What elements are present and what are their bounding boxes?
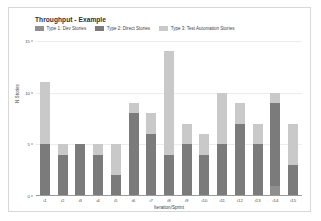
x-tick-label: i1 — [36, 198, 54, 203]
bar-segment[interactable] — [288, 165, 298, 196]
bar-segment[interactable] — [253, 144, 263, 196]
bar-segment[interactable] — [288, 124, 298, 165]
y-tick-mark — [31, 144, 33, 145]
chart-legend: Type 1: Dev Stories Type 2: Direct Stori… — [35, 26, 234, 31]
x-tick-label: i8 — [160, 198, 178, 203]
legend-item-type-3[interactable]: Type 3: Test Automation Stories — [159, 26, 234, 31]
bar-segment[interactable] — [93, 144, 103, 154]
bar-segment[interactable] — [129, 113, 139, 196]
bar-stack[interactable] — [164, 51, 174, 196]
bar-group[interactable] — [196, 41, 214, 196]
legend-label-type-1: Type 1: Dev Stories — [47, 26, 87, 31]
bar-segment[interactable] — [182, 124, 192, 145]
x-tick-label: i4 — [89, 198, 107, 203]
bar-group[interactable] — [160, 41, 178, 196]
bar-group[interactable] — [231, 41, 249, 196]
bar-stack[interactable] — [288, 124, 298, 196]
legend-swatch-type-3 — [159, 26, 168, 31]
bar-stack[interactable] — [58, 144, 68, 196]
plot-area — [36, 41, 302, 196]
bar-stack[interactable] — [217, 93, 227, 196]
bar-stack[interactable] — [146, 113, 156, 196]
y-axis-ticks: 051015 — [9, 41, 33, 196]
legend-item-type-1[interactable]: Type 1: Dev Stories — [35, 26, 86, 31]
legend-item-type-2[interactable]: Type 2: Direct Stories — [95, 26, 150, 31]
bar-group[interactable] — [213, 41, 231, 196]
x-tick-label: i3 — [71, 198, 89, 203]
bar-stack[interactable] — [93, 144, 103, 196]
x-tick-label: i7 — [142, 198, 160, 203]
bar-segment[interactable] — [217, 93, 227, 145]
bar-segment[interactable] — [182, 144, 192, 196]
bar-group[interactable] — [125, 41, 143, 196]
bar-segment[interactable] — [146, 134, 156, 196]
bar-stack[interactable] — [111, 144, 121, 196]
bar-stack[interactable] — [199, 134, 209, 196]
bar-group[interactable] — [107, 41, 125, 196]
bar-group[interactable] — [267, 41, 285, 196]
bar-segment[interactable] — [40, 144, 50, 196]
x-tick-label: i2 — [54, 198, 72, 203]
x-axis-ticks: i1i2i3i4i5i6i7i8i9i10i11i12i13i14i15 — [36, 198, 302, 203]
bar-segment[interactable] — [164, 51, 174, 154]
x-tick-label: i12 — [231, 198, 249, 203]
bar-group[interactable] — [36, 41, 54, 196]
x-tick-label: i15 — [284, 198, 302, 203]
bar-group[interactable] — [249, 41, 267, 196]
x-tick-label: i13 — [249, 198, 267, 203]
x-axis-title: Iteration/Sprint — [36, 205, 302, 210]
bar-segment[interactable] — [235, 124, 245, 196]
x-tick-label: i10 — [196, 198, 214, 203]
bar-segment[interactable] — [217, 144, 227, 196]
y-tick-mark — [31, 41, 33, 42]
bar-group[interactable] — [142, 41, 160, 196]
legend-label-type-3: Type 3: Test Automation Stories — [171, 26, 235, 31]
chart-title: Throughput - Example — [35, 16, 106, 23]
bar-segment[interactable] — [164, 155, 174, 196]
bar-stack[interactable] — [129, 103, 139, 196]
x-tick-label: i6 — [125, 198, 143, 203]
legend-swatch-type-1 — [35, 26, 44, 31]
legend-swatch-type-2 — [95, 26, 104, 31]
bar-group[interactable] — [178, 41, 196, 196]
bar-segment[interactable] — [146, 113, 156, 134]
x-axis-line — [36, 195, 302, 196]
bar-group[interactable] — [89, 41, 107, 196]
bar-segment[interactable] — [235, 103, 245, 124]
x-tick-label: i11 — [213, 198, 231, 203]
bar-group[interactable] — [54, 41, 72, 196]
y-tick-label: 10 — [25, 90, 30, 95]
bar-group[interactable] — [71, 41, 89, 196]
bar-series-container — [36, 41, 302, 196]
chart-figure: Throughput - Example Type 1: Dev Stories… — [8, 7, 311, 212]
bar-segment[interactable] — [253, 124, 263, 145]
bar-segment[interactable] — [40, 82, 50, 144]
bar-segment[interactable] — [129, 103, 139, 113]
bar-segment[interactable] — [270, 93, 280, 103]
y-tick-mark — [31, 92, 33, 93]
bar-segment[interactable] — [58, 155, 68, 196]
bar-segment[interactable] — [111, 175, 121, 196]
bar-stack[interactable] — [253, 124, 263, 196]
y-tick-label: 0 — [28, 194, 30, 199]
bar-segment[interactable] — [111, 144, 121, 175]
y-tick-mark — [31, 196, 33, 197]
bar-segment[interactable] — [75, 144, 85, 196]
bar-segment[interactable] — [199, 134, 209, 155]
bar-segment[interactable] — [199, 155, 209, 196]
x-tick-label: i9 — [178, 198, 196, 203]
bar-segment[interactable] — [270, 103, 280, 186]
bar-stack[interactable] — [40, 82, 50, 196]
bar-stack[interactable] — [75, 144, 85, 196]
x-tick-label: i14 — [267, 198, 285, 203]
bar-stack[interactable] — [182, 124, 192, 196]
bar-stack[interactable] — [235, 103, 245, 196]
y-tick-label: 15 — [25, 39, 30, 44]
x-tick-label: i5 — [107, 198, 125, 203]
bar-segment[interactable] — [93, 155, 103, 196]
bar-segment[interactable] — [58, 144, 68, 154]
y-tick-label: 5 — [28, 142, 30, 147]
legend-label-type-2: Type 2: Direct Stories — [107, 26, 150, 31]
bar-stack[interactable] — [270, 93, 280, 196]
bar-group[interactable] — [284, 41, 302, 196]
